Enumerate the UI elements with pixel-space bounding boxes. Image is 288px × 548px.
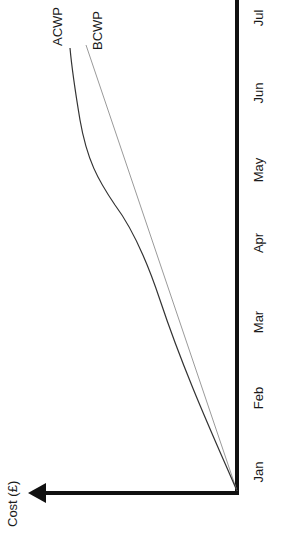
month-label-feb: Feb (251, 387, 266, 409)
month-label-jan: Jan (251, 462, 266, 483)
month-label-mar: Mar (251, 310, 266, 333)
earned-value-chart: ACWP BCWP Cost (£) Jan Feb Mar Apr May J… (0, 0, 288, 548)
bcwp-label: BCWP (90, 11, 105, 50)
acwp-line (70, 48, 237, 491)
cost-axis-arrow-icon (28, 483, 46, 503)
month-label-jul: Jul (251, 10, 266, 27)
acwp-label: ACWP (50, 7, 65, 46)
bcwp-line (86, 45, 237, 491)
month-label-may: May (251, 157, 266, 182)
month-label-jun: Jun (251, 83, 266, 104)
cost-axis-label: Cost (£) (5, 481, 20, 527)
month-label-apr: Apr (251, 232, 266, 253)
chart-svg: ACWP BCWP Cost (£) Jan Feb Mar Apr May J… (0, 0, 288, 548)
